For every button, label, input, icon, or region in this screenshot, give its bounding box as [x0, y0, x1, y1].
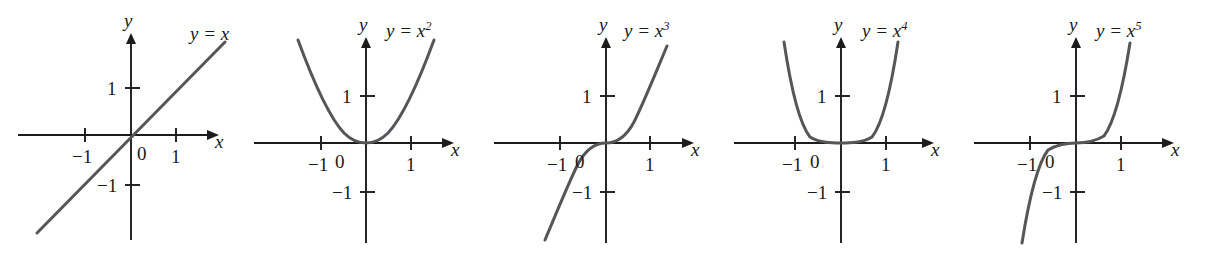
origin-label: 0 — [335, 151, 345, 172]
x-axis-label: x — [450, 139, 460, 160]
x-tick-label-neg-one: −1 — [308, 154, 328, 175]
x-tick-label-neg-one: −1 — [547, 154, 567, 175]
y-tick-label-neg-one: −1 — [572, 182, 592, 203]
x-tick-label-neg-one: −1 — [72, 146, 92, 167]
graph-panel-5: x y 0 −1 1 1 −1 y = x5 — [960, 0, 1210, 254]
equation-exponent-5: 5 — [1135, 19, 1141, 33]
y-axis-label: y — [1067, 14, 1078, 35]
origin-label: 0 — [1045, 151, 1055, 172]
equation-base-1: y = x — [188, 23, 230, 44]
x-tick-label-pos-one: 1 — [406, 154, 416, 175]
y-tick-label-pos-one: 1 — [582, 86, 592, 107]
y-tick-label-neg-one: −1 — [97, 175, 117, 196]
y-tick-label-neg-one: −1 — [1042, 182, 1062, 203]
y-axis-label: y — [357, 14, 368, 35]
graph-canvas-4: x y 0 −1 1 1 −1 y = x4 — [720, 0, 960, 254]
y-tick-label-pos-one: 1 — [107, 78, 117, 99]
y-tick-label-neg-one: −1 — [807, 182, 827, 203]
equation-exponent-2: 2 — [425, 19, 431, 33]
y-axis-arrowhead — [601, 37, 611, 48]
graph-panel-1: x y 0 −1 1 1 −1 y = x — [0, 0, 240, 254]
graph-panel-4: x y 0 −1 1 1 −1 y = x4 — [720, 0, 960, 254]
equation-label-4: y = x4 — [860, 19, 907, 41]
graph-canvas-1: x y 0 −1 1 1 −1 y = x — [0, 0, 240, 254]
y-axis-arrowhead — [361, 37, 371, 48]
equation-exponent-4: 4 — [901, 19, 907, 33]
x-tick-label-pos-one: 1 — [171, 146, 181, 167]
x-tick-label-neg-one: −1 — [782, 154, 802, 175]
y-axis-label: y — [597, 14, 608, 35]
graph-canvas-5: x y 0 −1 1 1 −1 y = x5 — [960, 0, 1210, 254]
y-axis-label: y — [832, 14, 843, 35]
graph-canvas-3: x y 0 −1 1 1 −1 y = x3 — [480, 0, 720, 254]
x-tick-label-pos-one: 1 — [645, 154, 655, 175]
y-tick-label-pos-one: 1 — [817, 86, 827, 107]
y-tick-label-pos-one: 1 — [1052, 86, 1062, 107]
equation-base-2: y = x — [384, 20, 426, 41]
x-tick-label-pos-one: 1 — [881, 154, 891, 175]
x-axis-label: x — [930, 139, 940, 160]
origin-label: 0 — [810, 151, 820, 172]
x-axis-label: x — [690, 139, 700, 160]
y-tick-label-neg-one: −1 — [332, 182, 352, 203]
graph-canvas-2: x y 0 −1 1 1 −1 y = x2 — [240, 0, 480, 254]
origin-label: 0 — [575, 151, 585, 172]
y-tick-label-pos-one: 1 — [342, 86, 352, 107]
y-axis-arrowhead — [836, 37, 846, 48]
x-axis-label: x — [214, 131, 224, 152]
origin-label: 0 — [137, 143, 147, 164]
graph-panel-2: x y 0 −1 1 1 −1 y = x2 — [240, 0, 480, 254]
power-function-graphs-figure: x y 0 −1 1 1 −1 y = x x y 0 — [0, 0, 1210, 254]
equation-label-2: y = x2 — [384, 19, 431, 41]
equation-base-5: y = x — [1094, 20, 1136, 41]
equation-base-3: y = x — [622, 20, 664, 41]
y-axis-arrowhead — [1071, 37, 1081, 48]
y-axis-arrowhead — [126, 33, 136, 44]
x-tick-label-pos-one: 1 — [1116, 154, 1126, 175]
equation-label-5: y = x5 — [1094, 19, 1141, 41]
equation-exponent-3: 3 — [662, 19, 669, 33]
equation-label-1: y = x — [188, 23, 230, 44]
x-axis-label: x — [1170, 139, 1180, 160]
graph-panel-3: x y 0 −1 1 1 −1 y = x3 — [480, 0, 720, 254]
y-axis-label: y — [122, 10, 133, 31]
equation-base-4: y = x — [860, 20, 902, 41]
equation-label-3: y = x3 — [622, 19, 669, 41]
x-tick-label-neg-one: −1 — [1017, 154, 1037, 175]
